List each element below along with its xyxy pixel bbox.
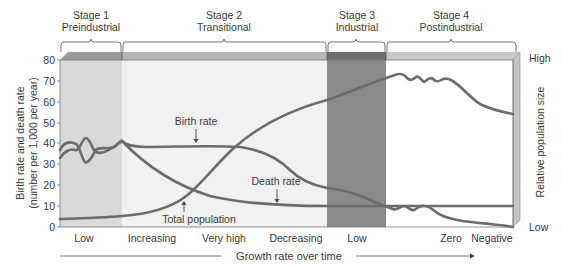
x-category: Negative — [471, 232, 513, 244]
stage2-background — [122, 60, 327, 227]
stage1-subtitle: Preindustrial — [62, 21, 120, 33]
right-axis-high: High — [529, 52, 551, 64]
y-tick: 20 — [43, 179, 55, 191]
death-rate-annotation: Death rate — [251, 175, 300, 187]
x-axis-label: Growth rate over time — [236, 250, 342, 262]
stage4-background — [386, 60, 513, 227]
x-category: Increasing — [128, 232, 177, 244]
top-band-stage2 — [122, 52, 327, 60]
stage2-subtitle: Transitional — [197, 21, 251, 33]
stage1-title: Stage 1 — [73, 9, 109, 21]
y-tick: 80 — [43, 54, 55, 66]
top-band-stage4 — [386, 52, 520, 60]
y-axis-label-line2: (number per 1,000 per year) — [27, 77, 39, 208]
x-category: Zero — [440, 232, 462, 244]
x-category: Low — [74, 232, 94, 244]
right-edge — [513, 52, 520, 227]
top-band-stage1 — [60, 52, 122, 60]
x-category: Decreasing — [269, 232, 322, 244]
stage4-subtitle: Postindustrial — [419, 21, 482, 33]
birth-rate-annotation: Birth rate — [175, 115, 218, 127]
arrow-head-icon — [470, 254, 475, 259]
y-tick: 10 — [43, 200, 55, 212]
y-tick: 60 — [43, 96, 55, 108]
right-axis-low: Low — [529, 221, 549, 233]
y-axis: 0 10 20 30 40 50 60 70 80 — [43, 54, 60, 233]
y-tick: 40 — [43, 137, 55, 149]
stage4-title: Stage 4 — [433, 9, 469, 21]
y-tick: 0 — [49, 221, 55, 233]
x-category: Low — [347, 232, 367, 244]
top-band-stage3 — [327, 52, 386, 60]
stage3-subtitle: Industrial — [336, 21, 379, 33]
total-population-annotation: Total population — [162, 213, 236, 225]
y-tick: 50 — [43, 117, 55, 129]
y-tick: 30 — [43, 158, 55, 170]
stage-braces — [61, 39, 516, 52]
stage2-title: Stage 2 — [206, 9, 242, 21]
right-axis-label: Relative population size — [534, 86, 546, 197]
y-axis-label-line1: Birth rate and death rate — [14, 86, 26, 199]
demographic-transition-diagram: Stage 1 Preindustrial Stage 2 Transition… — [0, 0, 563, 275]
y-tick: 70 — [43, 75, 55, 87]
x-category: Very high — [202, 232, 246, 244]
stage3-title: Stage 3 — [339, 9, 375, 21]
